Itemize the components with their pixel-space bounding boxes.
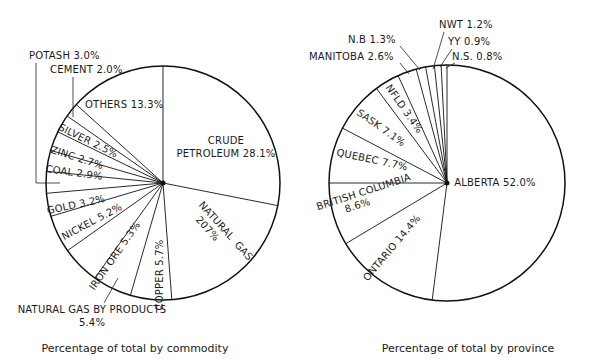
commodity-chart-caption: Percentage of total by commodity <box>42 342 229 355</box>
commodity-pie-chart: CRUDE PETROLEUM 28.1% NATURAL 207% GAS C… <box>18 50 280 355</box>
label-yy: YY 0.9% <box>447 36 490 47</box>
label-crude-petroleum-line2: PETROLEUM 28.1% <box>176 148 275 159</box>
label-nwt: NWT 1.2% <box>439 19 493 30</box>
pie-charts-figure: CRUDE PETROLEUM 28.1% NATURAL 207% GAS C… <box>0 0 597 364</box>
label-copper: COPPER 5.7% <box>154 240 165 311</box>
label-natural-gas-by-products-line1: NATURAL GAS BY PRODUCTS <box>18 304 167 315</box>
label-others: OTHERS 13.3% <box>85 99 163 110</box>
commodity-pie-center <box>161 181 166 186</box>
province-pie-chart: ALBERTA 52.0% ONTARIO 14.4% BRITISH COLU… <box>309 19 565 355</box>
label-potash: POTASH 3.0% <box>29 50 100 61</box>
label-ns: N.S. 0.8% <box>452 51 503 62</box>
province-chart-caption: Percentage of total by province <box>382 342 555 355</box>
label-alberta: ALBERTA 52.0% <box>454 177 536 188</box>
label-nb: N.B 1.3% <box>348 34 396 45</box>
label-crude-petroleum-line1: CRUDE <box>208 135 244 146</box>
province-pie-center <box>445 181 450 186</box>
label-manitoba: MANITOBA 2.6% <box>309 51 394 62</box>
label-natural-gas-by-products-line2: 5.4% <box>79 317 105 328</box>
label-cement: CEMENT 2.0% <box>50 64 123 75</box>
